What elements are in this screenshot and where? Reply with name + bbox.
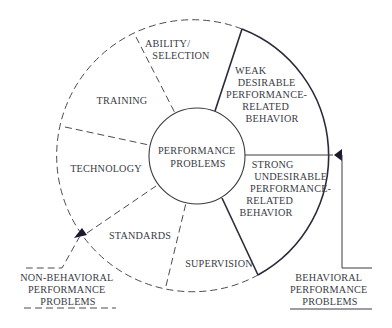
segment-label-weak-desirable: WEAK DESIRABLE PERFORMANCE- RELATED BEHA…: [226, 65, 310, 124]
center-circle: [149, 108, 245, 204]
non-behavioral-leader-line: [26, 236, 80, 268]
behavioral-leader-line: [342, 155, 372, 268]
segment-label-technology: TECHNOLOGY: [70, 163, 142, 174]
behavioral-arrow-icon: [334, 149, 342, 161]
segment-label-strong-undesirable: STRONG UNDESIRABLE PERFORMANCE- RELATED …: [240, 159, 334, 218]
segment-label-standards: STANDARDS: [109, 230, 171, 241]
divider-standards-supervision: [166, 203, 186, 286]
divider-training-technology: [65, 127, 149, 145]
segment-label-ability-selection: ABILITY/ SELECTION: [145, 38, 210, 61]
non-behavioral-arrow-icon: [74, 228, 87, 238]
segment-label-supervision: SUPERVISION: [185, 258, 253, 269]
behavioral-callout-label: BEHAVIORAL PERFORMANCE PROBLEMS: [290, 272, 370, 307]
divider-technology-standards: [87, 186, 156, 233]
non-behavioral-callout-label: NON-BEHAVIORAL PERFORMANCE PROBLEMS: [20, 272, 116, 307]
performance-problems-diagram: PERFORMANCE PROBLEMS ABILITY/ SELECTION …: [0, 0, 392, 328]
segment-label-training: TRAINING: [97, 95, 148, 106]
